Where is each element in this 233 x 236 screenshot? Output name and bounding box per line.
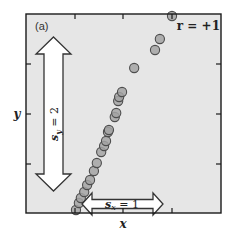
data-point [92,158,101,167]
data-point [150,45,159,54]
data-point [112,108,121,117]
data-point [130,63,139,72]
data-point [85,175,94,184]
data-point [104,125,113,134]
sx-label: sx = 1 [105,198,139,212]
data-point [101,136,110,145]
scatter-chart: sy = 2 sx = 1 (a) r = +1 y x [0,0,233,236]
data-point [155,34,164,43]
x-axis-label: x [118,217,127,231]
y-axis-label: y [13,107,22,121]
data-point [117,87,126,96]
correlation-annotation: r = +1 [177,19,220,33]
sy-label: sy = 2 [48,107,63,141]
panel-label: (a) [35,20,48,32]
